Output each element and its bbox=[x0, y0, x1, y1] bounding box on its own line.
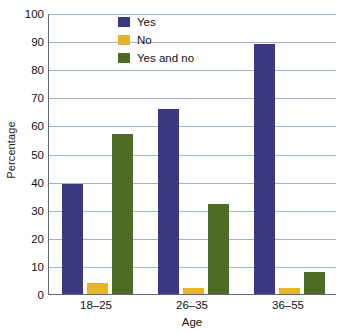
y-axis-tick-label: 70 bbox=[31, 92, 44, 104]
y-axis-tick-label: 90 bbox=[31, 36, 44, 48]
chart-legend: YesNoYes and no bbox=[118, 14, 226, 68]
y-axis-tick-label: 30 bbox=[31, 205, 44, 217]
legend-item-label: Yes bbox=[137, 16, 156, 28]
bar bbox=[87, 283, 108, 294]
legend-item-label: Yes and no bbox=[137, 52, 194, 64]
y-axis-tick-labels: 0102030405060708090100 bbox=[14, 14, 44, 295]
x-axis-tick-label: 36–55 bbox=[272, 299, 304, 311]
bar bbox=[279, 288, 300, 294]
x-axis-tick-label: 26–35 bbox=[176, 299, 208, 311]
y-axis-tick-label: 40 bbox=[31, 177, 44, 189]
y-axis-tick-label: 10 bbox=[31, 261, 44, 273]
legend-swatch-icon bbox=[118, 17, 130, 27]
bar bbox=[254, 44, 275, 294]
bar bbox=[304, 272, 325, 294]
legend-swatch-icon bbox=[118, 35, 130, 45]
y-axis-tick-label: 20 bbox=[31, 233, 44, 245]
legend-item: Yes and no bbox=[118, 50, 226, 66]
bar bbox=[158, 109, 179, 294]
legend-swatch-icon bbox=[118, 53, 130, 63]
legend-item-label: No bbox=[137, 34, 152, 46]
legend-item: No bbox=[118, 32, 226, 48]
y-axis-tick-label: 0 bbox=[38, 289, 44, 301]
y-axis-tick-label: 80 bbox=[31, 64, 44, 76]
x-axis-tick-label: 18–25 bbox=[80, 299, 112, 311]
bar-group bbox=[254, 14, 325, 294]
bar bbox=[112, 134, 133, 294]
bar bbox=[183, 288, 204, 294]
y-axis-tick-label: 50 bbox=[31, 149, 44, 161]
bar-chart: Percentage 0102030405060708090100 YesNoY… bbox=[0, 0, 348, 334]
x-axis-title: Age bbox=[48, 316, 336, 328]
y-axis-tick-label: 60 bbox=[31, 120, 44, 132]
bar bbox=[208, 204, 229, 294]
bar bbox=[62, 184, 83, 294]
y-axis-tick-label: 100 bbox=[25, 8, 44, 20]
x-axis-tick-labels: 18–2526–3536–55 bbox=[48, 299, 336, 315]
legend-item: Yes bbox=[118, 14, 226, 30]
